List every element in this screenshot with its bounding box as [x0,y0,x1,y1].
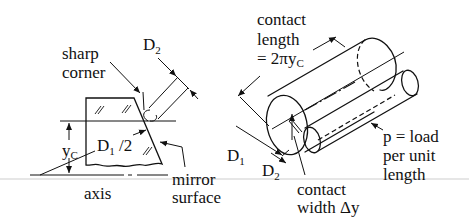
small-cylinder-back-end [399,68,421,97]
load-arrow [371,123,383,130]
load-label-2: per unit [383,146,436,165]
contact-length-ext-back [334,39,345,47]
d2-arrow-bottom [190,90,198,99]
large-cylinder-back-end-visible [365,38,396,90]
yc-label: yC [62,141,78,161]
contact-length-arrow-front [238,76,260,96]
contact-length-label-2: length [257,30,300,49]
contact-width-label-2: width Δy [297,198,360,217]
d2-arrow-top-dimline [176,76,189,89]
d1-label-right: D1 [227,146,245,167]
contact-cylinder-section-lower [150,115,157,121]
sharp-corner-vertical-tick [143,92,144,110]
load-label-3: length [383,165,426,184]
d2-arrow-top [158,58,176,76]
left-panel-mirror-section: sharp corner D2 yC D1 /2 axis mirror sur… [30,35,221,207]
large-cylinder-front-end [261,91,313,158]
large-cylinder-back-end-hidden [357,40,374,91]
contact-length-arrow-back [313,37,336,50]
mirror-contact-diagram: sharp corner D2 yC D1 /2 axis mirror sur… [0,0,469,224]
d2-label-left: D2 [143,35,161,56]
contact-width-leader [294,136,305,175]
sharp-corner-label-2: corner [62,63,106,82]
contact-width-label-1: contact [297,180,346,199]
contact-length-ext-front [240,97,269,126]
sharp-corner-label: sharp [62,44,99,63]
contact-cylinder-section [144,110,150,121]
large-cylinder-bottom-edge [305,112,374,152]
large-cylinder-hidden-axis [305,82,355,110]
mirror-surface-leader [160,142,185,167]
mirror-body-outline [86,98,162,166]
d2-label-right: D2 [262,161,280,182]
sharp-corner-leader [110,62,140,93]
load-label-1: p = load [383,127,439,146]
mirror-surface-label-2: surface [172,188,221,207]
d1-half-arrow [133,130,146,135]
d2-extension-line-2 [158,88,188,119]
contact-length-label-3: = 2πyC [257,49,304,69]
mirror-surface-label: mirror [172,170,216,189]
d1-dimension-line [236,126,282,155]
contact-length-label-1: contact [257,10,306,29]
d1-half-label: D1 /2 [97,136,132,157]
axis-label: axis [84,184,111,203]
right-panel-cylinder-contact: contact length = 2πyC D1 D2 contact widt… [227,10,439,217]
